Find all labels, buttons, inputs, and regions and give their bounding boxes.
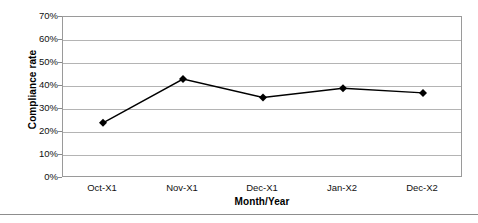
y-tick-label: 60%	[18, 34, 58, 44]
data-point-marker	[259, 94, 267, 102]
data-point-marker	[179, 75, 187, 83]
plot-area	[62, 16, 462, 177]
y-tick-label: 30%	[18, 103, 58, 113]
y-axis-tick-labels: 0%10%20%30%40%50%60%70%	[14, 0, 58, 223]
series-markers	[99, 75, 427, 127]
x-tick-label: Dec-X2	[382, 182, 462, 194]
y-tick-label: 20%	[18, 126, 58, 136]
data-point-marker	[419, 89, 427, 97]
y-tick-label: 40%	[18, 80, 58, 90]
x-tick-label: Jan-X2	[302, 182, 382, 194]
compliance-rate-line-chart: Compliance rate 0%10%20%30%40%50%60%70% …	[0, 0, 478, 223]
y-tick-label: 10%	[18, 149, 58, 159]
series-compliance-rate	[63, 17, 462, 177]
x-axis-title: Month/Year	[62, 196, 462, 207]
y-tickmark	[58, 177, 62, 178]
footer-rule	[0, 214, 478, 215]
x-tick-label: Dec-X1	[222, 182, 302, 194]
y-tick-label: 0%	[18, 172, 58, 182]
data-point-marker	[99, 119, 107, 127]
y-tick-label: 70%	[18, 11, 58, 21]
x-axis-tick-labels: Oct-X1Nov-X1Dec-X1Jan-X2Dec-X2	[62, 182, 462, 196]
x-tick-label: Nov-X1	[142, 182, 222, 194]
x-tick-label: Oct-X1	[62, 182, 142, 194]
data-point-marker	[339, 84, 347, 92]
y-tick-label: 50%	[18, 57, 58, 67]
